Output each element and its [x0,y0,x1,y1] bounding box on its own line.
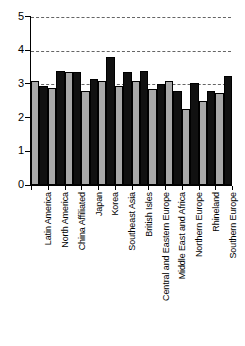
y-tick-label-0: 0 [2,179,24,190]
bar [48,88,56,185]
bar-group [199,17,216,185]
x-tick-mark [31,186,32,190]
bar [73,72,81,185]
bar-group [148,17,165,185]
y-tick-label-2: 2 [2,112,24,123]
bar [140,71,148,185]
y-axis-tick-labels: 5 4 3 2 1 0 [0,0,24,346]
bar-group [182,17,199,185]
bar [65,72,73,185]
bar-chart: 5 4 3 2 1 0 Latin AmericaNorth AmericaCh… [0,0,245,346]
bars-layer [31,17,232,185]
category-label: Central and Eastern Europe [161,192,171,301]
bar [207,91,215,185]
bar-group [115,17,132,185]
bar [31,81,39,185]
category-label: Latin America [43,192,53,245]
x-tick-mark [98,186,99,190]
x-tick-mark [199,186,200,190]
y-tick-label-5: 5 [2,11,24,22]
bar [182,109,190,185]
bar [148,89,156,185]
x-tick-mark [215,186,216,190]
x-tick-mark [115,186,116,190]
x-tick-mark [182,186,183,190]
bar-group [165,17,182,185]
y-tick-label-3: 3 [2,78,24,89]
bar [81,91,89,185]
category-label: Southern Europe [228,192,238,259]
category-label: China Affiliated [77,192,87,250]
bar-group [65,17,82,185]
x-axis-tick-marks [31,186,232,190]
bar [132,81,140,185]
category-label: Middle East and Africa [177,192,187,279]
y-tick-label-1: 1 [2,145,24,156]
bar [98,81,106,185]
category-label: Northern Europe [194,192,204,257]
bar-group [31,17,48,185]
x-tick-mark [65,186,66,190]
bar-group [48,17,65,185]
bar [165,81,173,185]
bar [90,79,98,185]
category-label: North America [60,192,70,248]
bar [173,91,181,185]
category-label: Southeast Asia [127,192,137,251]
x-tick-mark [165,186,166,190]
bar [215,93,223,185]
bar [106,57,114,185]
x-tick-mark [232,186,233,190]
bar-group [132,17,149,185]
x-axis-category-labels: Latin AmericaNorth AmericaChina Affiliat… [31,192,232,342]
category-label: British Isles [144,192,154,237]
bar [56,71,64,185]
bar-group [215,17,232,185]
bar-group [98,17,115,185]
bar [190,83,198,185]
x-tick-mark [81,186,82,190]
category-label: Rhineland [211,192,221,232]
bar [199,101,207,185]
x-tick-mark [132,186,133,190]
bar-group [81,17,98,185]
bar [39,86,47,185]
category-label: Korea [110,192,120,216]
category-label: Japan [94,192,104,216]
x-tick-mark [48,186,49,190]
bar [157,84,165,185]
y-tick-label-4: 4 [2,44,24,55]
bar [123,72,131,185]
bar [224,76,232,185]
x-tick-mark [148,186,149,190]
bar [115,86,123,185]
